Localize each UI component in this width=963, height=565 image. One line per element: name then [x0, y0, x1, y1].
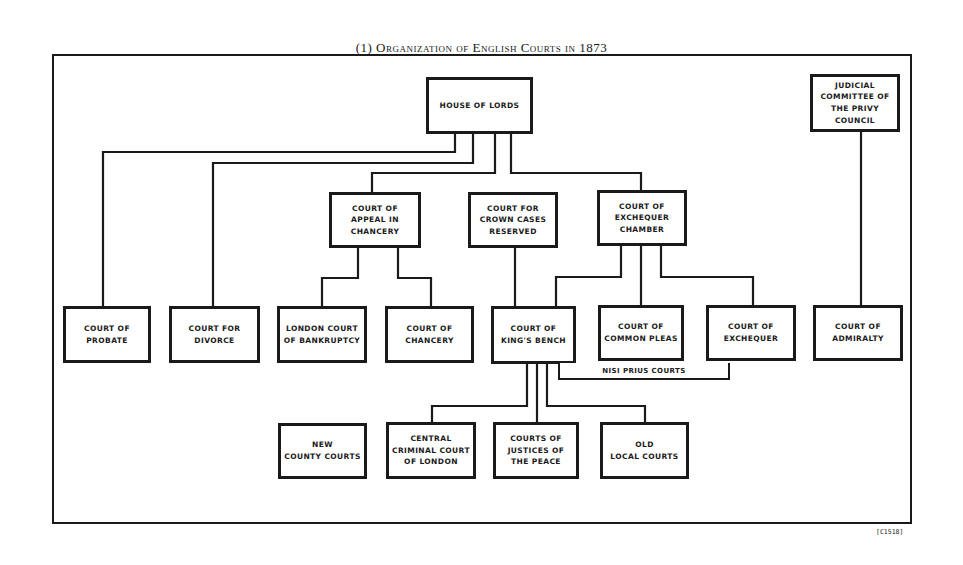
node-justices-of-the-peace: COURTS OF JUSTICES OF THE PEACE — [493, 422, 579, 479]
node-kings-bench: COURT OF KING'S BENCH — [491, 306, 576, 364]
node-court-of-exchequer: COURT OF EXCHEQUER — [706, 305, 796, 361]
node-common-pleas: COURT OF COMMON PLEAS — [598, 305, 684, 361]
node-appeal-in-chancery: COURT OF APPEAL IN CHANCERY — [329, 192, 421, 248]
node-old-local-courts: OLD LOCAL COURTS — [600, 422, 689, 479]
figure-code: [C1518] — [876, 528, 903, 536]
node-court-of-probate: COURT OF PROBATE — [63, 306, 151, 363]
node-exchequer-chamber: COURT OF EXCHEQUER CHAMBER — [597, 190, 687, 246]
node-house-of-lords: HOUSE OF LORDS — [426, 77, 533, 134]
node-privy-council: JUDICIAL COMMITTEE OF THE PRIVY COUNCIL — [810, 74, 900, 132]
node-nisi-prius-courts: NISI PRIUS COURTS — [558, 363, 730, 380]
node-court-of-chancery: COURT OF CHANCERY — [385, 306, 474, 363]
node-new-county-courts: NEW COUNTY COURTS — [278, 423, 367, 479]
node-court-for-divorce: COURT FOR DIVORCE — [169, 306, 260, 363]
node-court-of-admiralty: COURT OF ADMIRALTY — [813, 305, 903, 361]
node-crown-cases-reserved: COURT FOR CROWN CASES RESERVED — [468, 192, 558, 248]
node-london-court-of-bankruptcy: LONDON COURT OF BANKRUPTCY — [277, 306, 367, 363]
node-central-criminal-court: CENTRAL CRIMINAL COURT OF LONDON — [386, 422, 476, 479]
